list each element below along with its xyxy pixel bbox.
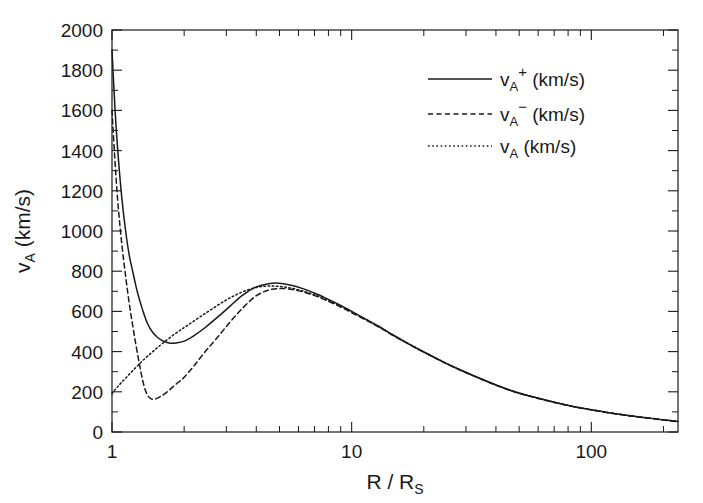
y-tick-label: 600	[71, 301, 103, 322]
alfven-velocity-plot: 1101000200400600800100012001400160018002…	[0, 0, 703, 503]
svg-text:vA (km/s): vA (km/s)	[500, 136, 576, 161]
data-curves	[112, 50, 678, 422]
x-tick-label: 100	[575, 441, 607, 462]
y-tick-label: 1000	[61, 221, 103, 242]
svg-text:vA (km/s): vA (km/s)	[11, 189, 38, 273]
x-axis-title: R / RS	[366, 470, 423, 497]
x-tick-label: 10	[341, 441, 362, 462]
plot-frame	[112, 30, 678, 432]
legend-label-va-units: (km/s)	[523, 136, 576, 157]
y-tick-label: 800	[71, 261, 103, 282]
legend-item-va-minus: vA− (km/s)	[428, 98, 585, 129]
x-axis-title-main: R / R	[366, 470, 414, 493]
figure-root: 1101000200400600800100012001400160018002…	[0, 0, 703, 503]
y-axis-title-unit: (km/s)	[11, 189, 34, 253]
y-tick-label: 2000	[61, 20, 103, 41]
legend-label-va-main: v	[500, 136, 510, 157]
legend-label-va-plus-units: (km/s)	[532, 69, 585, 90]
x-axis-title-subscript: S	[414, 481, 423, 497]
curve-series-1	[112, 110, 678, 421]
legend-label-va-sub: A	[510, 146, 519, 161]
svg-text:vA− (km/s): vA− (km/s)	[500, 98, 585, 129]
axis-ticks	[112, 30, 678, 432]
y-axis-title-main: v	[11, 262, 34, 273]
legend-label-va-minus-units: (km/s)	[532, 104, 585, 125]
legend-label-va-minus-main: v	[500, 104, 510, 125]
y-tick-label: 1400	[61, 141, 103, 162]
curve-series-0	[112, 50, 678, 421]
legend-label-va-plus-main: v	[500, 69, 510, 90]
y-tick-label: 1800	[61, 60, 103, 81]
legend-label-va-plus-sub: A	[510, 79, 519, 94]
y-axis-title: vA (km/s)	[11, 189, 38, 273]
svg-text:vA+ (km/s): vA+ (km/s)	[500, 63, 585, 94]
legend-label-va-minus-sub: A	[510, 114, 519, 129]
y-tick-label: 0	[92, 422, 103, 443]
legend: vA+ (km/s) vA− (km/s) vA (km/s)	[428, 63, 585, 161]
y-tick-label: 1200	[61, 181, 103, 202]
x-tick-label: 1	[107, 441, 118, 462]
legend-item-va: vA (km/s)	[428, 136, 576, 161]
svg-text:R / RS: R / RS	[366, 470, 423, 497]
legend-item-va-plus: vA+ (km/s)	[428, 63, 585, 94]
legend-label-va-minus-sup: −	[518, 98, 527, 115]
y-tick-label: 1600	[61, 100, 103, 121]
legend-label-va-plus-sup: +	[518, 63, 527, 80]
axis-tick-labels: 1101000200400600800100012001400160018002…	[61, 20, 607, 462]
curve-series-2	[112, 286, 678, 421]
y-tick-label: 200	[71, 382, 103, 403]
y-tick-label: 400	[71, 342, 103, 363]
